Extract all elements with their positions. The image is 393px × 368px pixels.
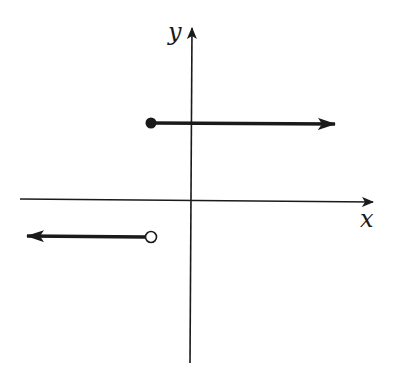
open-endpoint-circle <box>146 232 157 243</box>
y-axis <box>190 28 192 363</box>
graph-canvas: y x <box>0 0 393 368</box>
lower-segment <box>27 236 145 237</box>
closed-endpoint-dot <box>146 118 157 129</box>
upper-segment <box>152 123 335 124</box>
x-axis <box>20 199 373 202</box>
y-axis-label: y <box>167 18 182 46</box>
x-axis-label: x <box>360 205 374 233</box>
step-function-graph: y x <box>0 0 393 368</box>
